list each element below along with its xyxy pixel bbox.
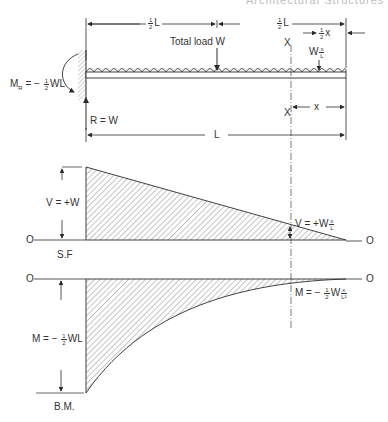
half-span-right-label: 12L	[276, 17, 289, 30]
moment-caption: B.M.	[54, 402, 75, 412]
x-dimension-label: x	[314, 102, 319, 112]
section-load-label: WxL	[309, 46, 325, 59]
shear-section-label: V = +WxL	[295, 218, 335, 231]
shear-zero-right: O	[366, 236, 374, 246]
wall-support	[78, 50, 86, 100]
x-dimension	[293, 78, 346, 140]
section-x-top-label: X	[284, 38, 291, 48]
half-span-left-label: 12L	[147, 17, 160, 30]
shear-max-label: V = +W	[46, 198, 79, 208]
diagram-graphics	[0, 0, 388, 422]
moment-zero-right: O	[366, 274, 374, 284]
moment-zero-left: O	[26, 274, 34, 284]
moment-max-label: M = − 12WL	[32, 333, 83, 346]
moment-reaction-label: MR = − 12WL	[10, 78, 65, 93]
moment-section-label: M = − 12WxL²	[295, 287, 348, 300]
total-load-label: Total load W	[170, 37, 225, 47]
beam	[86, 72, 346, 78]
cantilever-diagram: Architectural Structures	[0, 0, 388, 422]
half-x-label: 12x	[318, 27, 330, 40]
span-label: L	[214, 130, 220, 140]
section-x-bottom-label: X	[284, 108, 291, 118]
reaction-label: R = W	[90, 116, 118, 126]
shear-zero-left: O	[26, 235, 34, 245]
half-span-dimensions	[86, 18, 365, 68]
distributed-load	[86, 69, 346, 73]
shear-caption: S.F	[57, 250, 73, 260]
